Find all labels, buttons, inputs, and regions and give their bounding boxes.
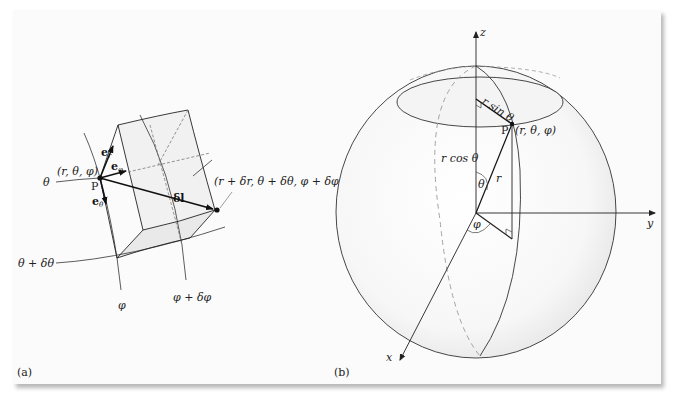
r-cos-theta-label: r cos θ [441,152,479,165]
r-label: r [496,172,502,185]
phi-label: φ [118,299,126,312]
endpoint [214,207,219,212]
phi-angle-label: φ [473,218,481,231]
point-coords-b: (r, θ, φ) [515,124,556,137]
z-axis-label: z [479,26,486,39]
point-label-a: P [91,180,99,193]
point-p-b [510,122,514,126]
theta-angle-label: θ [478,178,485,191]
point-label-b: P [501,124,509,137]
y-axis-label: y [646,217,654,230]
endpoint-coords: (r + δr, θ + δθ, φ + δφ) [214,175,343,188]
spherical-coordinates-diagram: z y x r sin θ P (r, θ, φ) r cos θ r θ φ … [334,26,655,379]
caption-a: (a) [17,366,32,379]
caption-b: (b) [334,366,350,379]
e-theta-label: eθ [92,195,104,209]
x-axis-label: x [386,351,393,364]
phi-plus-label: φ + δφ [173,291,212,304]
theta-plus-label: θ + δθ [18,257,54,270]
theta-label: θ [43,176,50,189]
volume-element-diagram: er eφ eθ (r, θ, φ) P θ δl (r + δr, θ + δ… [17,110,343,379]
point-coords-a: (r, θ, φ) [57,165,98,178]
e-phi-label: eφ [111,160,123,174]
delta-l-label: δl [173,192,185,205]
figure-svg: er eφ eθ (r, θ, φ) P θ δl (r + δr, θ + δ… [0,0,683,405]
